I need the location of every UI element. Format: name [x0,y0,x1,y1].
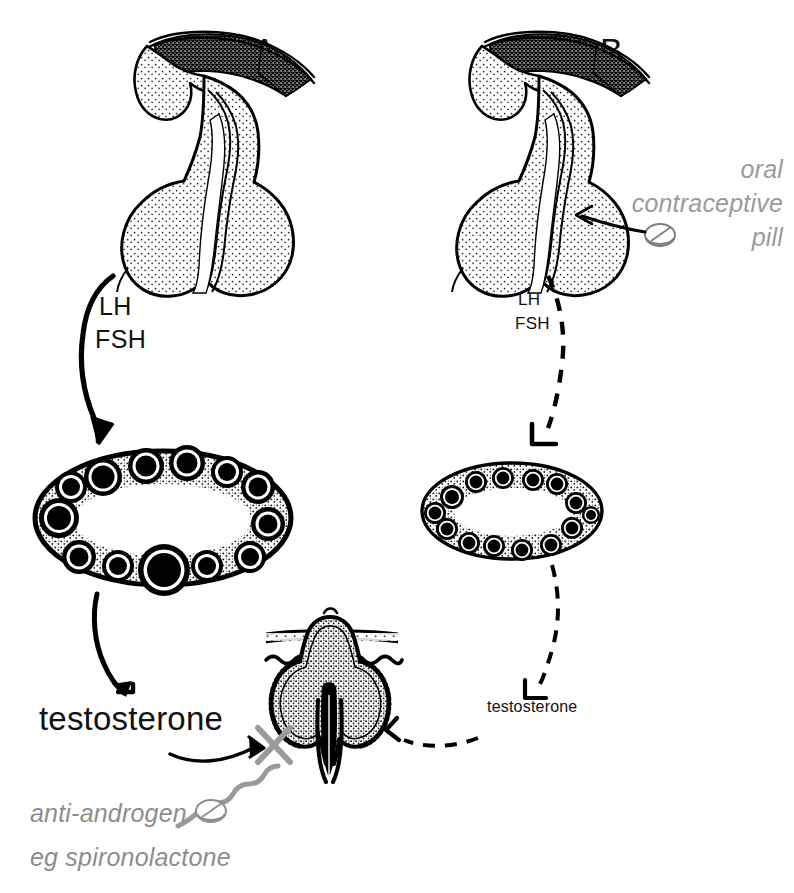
hormone-label-lh-a: LH [99,292,132,320]
hormone-label-fsh-b: FSH [515,314,550,333]
follicle [128,448,164,484]
anti-androgen-line1: anti-androgen [30,799,187,827]
follicle [234,541,266,573]
pill-icon [645,224,675,246]
follicle [522,469,544,491]
follicle [465,471,487,493]
follicle [191,550,223,582]
follicle [39,498,79,538]
follicle [440,485,464,509]
background [0,0,794,893]
follicle [483,535,505,557]
follicle [458,532,480,554]
follicle [84,458,122,496]
anti-androgen-line2: eg spironolactone [30,843,231,871]
follicle [102,550,134,582]
follicle [546,473,568,495]
follicle [62,540,96,574]
follicle [540,534,562,556]
pill-icon [196,800,226,822]
follicle [251,507,285,541]
follicle [492,467,514,489]
follicle [169,445,205,481]
hormone-label-lh-b: LH [518,290,540,309]
testosterone-label-a: testosterone [39,700,223,737]
follicle [211,456,243,488]
figure-canvas: A LH FSH [0,0,794,893]
oral-contraceptive-line1: oral [741,155,785,183]
follicle [55,471,87,503]
oral-contraceptive-line3: pill [751,223,785,251]
follicle [582,506,600,524]
suppressed-ovary-b [422,463,602,561]
hormone-label-fsh-a: FSH [95,325,146,353]
diagram-svg: A LH FSH [0,0,794,893]
follicle [424,502,446,524]
dominant-follicle-a [138,544,190,596]
oral-contraceptive-line2: contraceptive [632,189,783,217]
follicle [561,517,583,539]
follicle [241,470,275,504]
follicle [511,539,533,561]
testosterone-label-b: testosterone [487,698,577,715]
